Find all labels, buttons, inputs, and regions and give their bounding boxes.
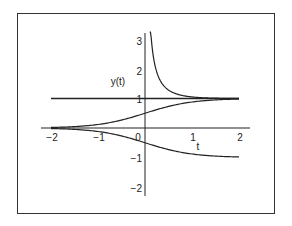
y-tick-label: −1 <box>131 153 143 164</box>
solution-curve <box>150 32 239 98</box>
x-tick-label: −1 <box>93 132 105 143</box>
y-tick-label: −2 <box>131 183 143 194</box>
chart-plot: −2 −1 0 1 2 3 2 1 −1 −2 t y(t) <box>0 0 292 226</box>
x-tick-label: −2 <box>46 132 58 143</box>
y-axis-label: y(t) <box>111 76 125 87</box>
x-axis-label: t <box>197 141 200 152</box>
x-tick-label: 0 <box>135 132 141 143</box>
x-tick-label: 1 <box>190 132 196 143</box>
y-tick-label: 1 <box>136 94 142 105</box>
y-tick-label: 2 <box>136 66 142 77</box>
x-tick-label: 2 <box>237 132 243 143</box>
y-tick-label: 3 <box>136 36 142 47</box>
